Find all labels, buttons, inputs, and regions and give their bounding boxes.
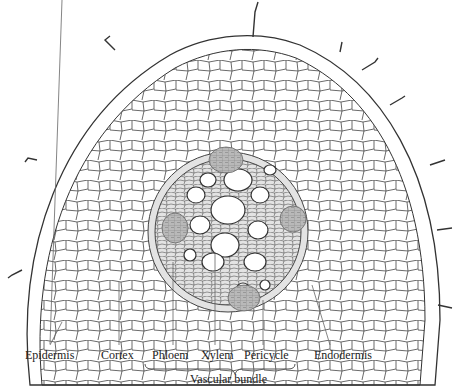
label-cortex: Cortex: [101, 348, 134, 363]
label-xylem: Xylem: [201, 348, 234, 363]
label-epidermis: Epidermis: [25, 348, 74, 363]
root-cross-section-drawing: [0, 0, 468, 390]
label-pericycle: Pericycle: [244, 348, 289, 363]
label-phloem: Phloem: [152, 348, 189, 363]
label-vascular-bundle: Vascular bundle: [190, 372, 267, 387]
label-endodermis: Endodermis: [314, 348, 372, 363]
